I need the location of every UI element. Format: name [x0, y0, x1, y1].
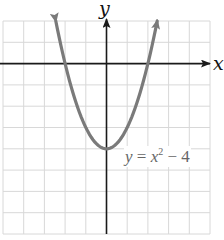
coordinate-graph	[0, 0, 224, 240]
equation-equals: =	[133, 147, 151, 166]
axes	[0, 19, 210, 234]
equation-label: y = x2 − 4	[124, 146, 191, 167]
equation-rest: − 4	[163, 147, 190, 166]
x-axis-label: x	[213, 52, 224, 74]
equation-lhs: y	[125, 147, 133, 166]
y-axis-label: y	[99, 0, 110, 19]
